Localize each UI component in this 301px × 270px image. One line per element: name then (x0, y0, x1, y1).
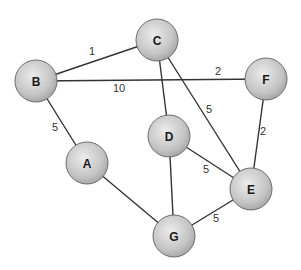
node-E: E (230, 168, 272, 210)
weighted-graph-diagram: 110255255 BCFDAEG (0, 0, 301, 270)
node-label: E (247, 183, 255, 197)
nodes-layer: BCFDAEG (15, 19, 287, 257)
node-label: A (83, 157, 92, 171)
node-label: D (165, 130, 174, 144)
node-C: C (136, 19, 178, 61)
node-B: B (15, 60, 57, 102)
edge-weight-label: 5 (52, 121, 58, 133)
edge-weight-label: 10 (113, 82, 125, 94)
edge-weight-label: 1 (89, 45, 95, 57)
node-label: C (153, 34, 162, 48)
edge-weight-label: 2 (215, 65, 221, 77)
node-label: F (262, 73, 269, 87)
node-label: B (32, 75, 41, 89)
node-A: A (66, 142, 108, 184)
node-D: D (148, 115, 190, 157)
node-F: F (245, 58, 287, 100)
edge-weight-label: 5 (203, 163, 209, 175)
edge-B-F (36, 79, 266, 81)
edge-weight-label: 5 (206, 103, 212, 115)
node-G: G (153, 215, 195, 257)
node-label: G (169, 230, 178, 244)
edge-weight-label: 2 (260, 125, 266, 137)
edge-weight-label: 5 (213, 212, 219, 224)
